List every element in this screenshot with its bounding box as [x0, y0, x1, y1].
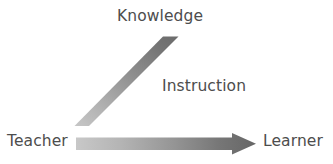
- knowledge-label: Knowledge: [117, 9, 203, 25]
- instruction-label: Instruction: [162, 79, 246, 95]
- instruction-arrow-shape: [76, 133, 256, 155]
- diagram-canvas: Knowledge Instruction Teacher Learner: [0, 0, 333, 164]
- teacher-label: Teacher: [7, 134, 68, 150]
- learner-label: Learner: [263, 134, 323, 150]
